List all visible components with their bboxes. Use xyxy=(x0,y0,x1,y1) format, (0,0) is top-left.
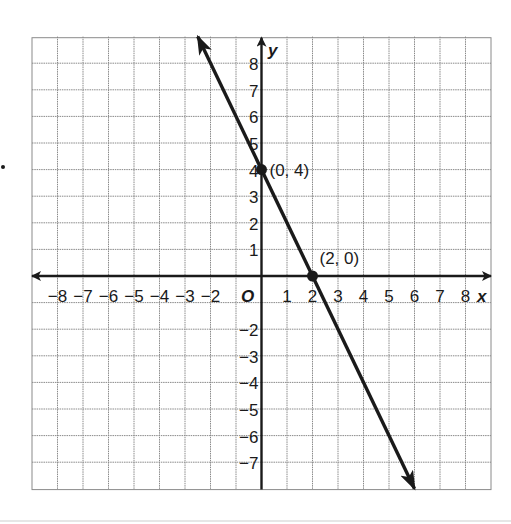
x-tick-label: 5 xyxy=(384,287,393,306)
x-tick-label: 1 xyxy=(282,287,291,306)
point-marker xyxy=(307,271,318,282)
y-tick-label: −2 xyxy=(239,321,258,340)
y-tick-label: −3 xyxy=(239,348,258,367)
x-tick-label: −2 xyxy=(201,287,220,306)
x-tick-label: 6 xyxy=(410,287,419,306)
y-tick-label: −4 xyxy=(239,374,258,393)
x-axis-label: x xyxy=(476,287,488,306)
x-tick-label: −7 xyxy=(73,287,92,306)
axes xyxy=(32,38,491,490)
x-tick-label: 8 xyxy=(461,287,470,306)
y-axis-label: y xyxy=(267,41,279,60)
y-tick-label: 3 xyxy=(249,188,258,207)
point-marker xyxy=(256,164,267,175)
x-tick-label: −4 xyxy=(150,287,169,306)
x-tick-label: 3 xyxy=(333,287,342,306)
coordinate-plane-figure: −8−7−6−5−4−3−212345678 87654321−2−3−4−5−… xyxy=(0,0,511,524)
x-tick-label: −8 xyxy=(48,287,67,306)
bottom-rule-divider xyxy=(0,520,511,522)
x-tick-label: −6 xyxy=(99,287,118,306)
x-tick-label: 7 xyxy=(435,287,444,306)
y-tick-label: 2 xyxy=(249,215,258,234)
line-series xyxy=(198,37,415,489)
y-tick-label: −5 xyxy=(239,401,258,420)
y-tick-label: −7 xyxy=(239,454,258,473)
y-tick-labels: 87654321−2−3−4−5−6−7 xyxy=(239,55,258,473)
y-tick-label: 8 xyxy=(249,55,258,74)
x-tick-label: −3 xyxy=(175,287,194,306)
x-tick-label: −5 xyxy=(124,287,143,306)
x-tick-labels: −8−7−6−5−4−3−212345678 xyxy=(48,287,470,306)
point-label: (0, 4) xyxy=(270,161,310,180)
y-tick-label: 1 xyxy=(249,241,258,260)
y-tick-label: 7 xyxy=(249,82,258,101)
y-tick-label: −6 xyxy=(239,428,258,447)
y-tick-label: 6 xyxy=(249,108,258,127)
x-tick-label: 2 xyxy=(308,287,317,306)
x-tick-label: 4 xyxy=(359,287,368,306)
plotted-lines xyxy=(198,37,415,489)
point-label: (2, 0) xyxy=(320,249,360,268)
stray-dot-mark xyxy=(1,165,5,169)
origin-label: O xyxy=(241,287,254,306)
